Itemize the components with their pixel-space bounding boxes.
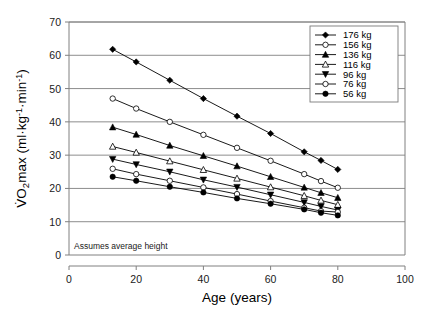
y-tick-label: 0 (55, 249, 61, 261)
data-point-marker (302, 207, 307, 212)
x-tick-label: 60 (265, 273, 277, 285)
y-tick-label: 40 (49, 116, 61, 128)
x-tick-label: 20 (130, 273, 142, 285)
x-tick-labels: 020406080100 (66, 273, 414, 285)
data-point-marker (234, 196, 239, 201)
y-tick-labels: 010203040506070 (49, 16, 61, 261)
data-point-marker (268, 158, 273, 163)
x-axis (69, 266, 405, 270)
chart-annotation: Assumes average height (74, 241, 168, 251)
data-point-marker (301, 149, 307, 155)
y-tick-label: 30 (49, 149, 61, 161)
y-axis-title: V̇O2max (ml·kg-1·min-1) (14, 69, 31, 207)
vo2max-line-chart: 010203040506070 020406080100 Assumes ave… (0, 0, 432, 309)
data-point-marker (167, 119, 172, 124)
data-point-marker (109, 124, 115, 130)
data-point-marker (201, 132, 206, 137)
data-point-marker (323, 91, 328, 96)
series-96-kg (109, 156, 341, 213)
data-point-marker (134, 106, 139, 111)
series-136-kg (109, 124, 341, 201)
y-tick-label: 10 (49, 216, 61, 228)
data-point-marker (268, 130, 274, 136)
data-point-marker (167, 77, 173, 83)
data-point-marker (318, 157, 324, 163)
data-point-marker (268, 201, 273, 206)
data-point-marker (201, 190, 206, 195)
x-tick-label: 80 (332, 273, 344, 285)
data-point-marker (323, 81, 328, 86)
data-point-marker (302, 171, 307, 176)
x-axis-title: Age (years) (202, 290, 272, 305)
y-tick-label: 60 (49, 49, 61, 61)
data-point-marker (335, 213, 340, 218)
x-tick-label: 100 (396, 273, 414, 285)
y-tick-label: 20 (49, 182, 61, 194)
x-tick-label: 0 (66, 273, 72, 285)
data-point-marker (318, 210, 323, 215)
legend-item-label: 56 kg (343, 88, 366, 99)
data-point-marker (323, 42, 328, 47)
data-point-marker (201, 185, 206, 190)
series-176-kg (110, 46, 341, 172)
data-point-marker (234, 113, 240, 119)
data-point-marker (335, 166, 341, 172)
data-point-marker (318, 178, 323, 183)
data-point-marker (110, 46, 116, 52)
data-point-marker (167, 184, 172, 189)
data-point-marker (234, 145, 239, 150)
data-point-marker (134, 171, 139, 176)
data-point-marker (335, 185, 340, 190)
y-tick-label: 50 (49, 83, 61, 95)
data-point-marker (133, 59, 139, 65)
data-point-marker (109, 143, 115, 149)
chart-container: 010203040506070 020406080100 Assumes ave… (0, 0, 432, 309)
x-tick-label: 40 (198, 273, 210, 285)
data-point-marker (167, 178, 172, 183)
annotation-layer: Assumes average height (74, 241, 168, 251)
data-point-marker (110, 166, 115, 171)
data-point-marker (134, 178, 139, 183)
data-point-marker (110, 96, 115, 101)
data-point-marker (110, 174, 115, 179)
data-point-marker (200, 95, 206, 101)
series-layer (109, 46, 341, 218)
legend-box: 176 kg156 kg136 kg116 kg96 kg76 kg56 kg (310, 26, 398, 102)
y-tick-label: 70 (49, 16, 61, 28)
